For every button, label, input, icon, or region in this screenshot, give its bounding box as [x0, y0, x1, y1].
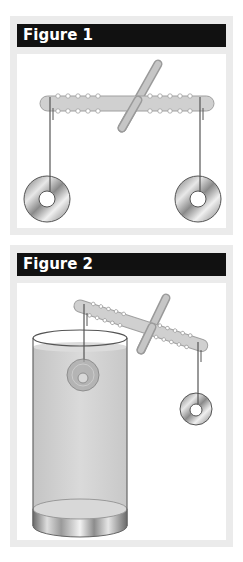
figures-illustration [0, 0, 243, 562]
figure-1-balance [24, 64, 221, 222]
washer-icon [24, 176, 70, 222]
figure-2-balance [33, 297, 212, 537]
washer-icon [180, 393, 212, 425]
washer-icon [175, 176, 221, 222]
washer-icon [67, 359, 99, 391]
